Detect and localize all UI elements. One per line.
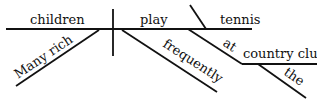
modifier-rich: rich (45, 31, 75, 58)
modifier-the: the (281, 64, 307, 89)
sentence-diagram: children play tennis Many rich frequentl… (0, 0, 317, 101)
prep-object-word: country club (243, 46, 317, 61)
object-word: tennis (220, 12, 261, 27)
verb-word: play (140, 12, 168, 27)
verb-object-divider (190, 5, 206, 29)
subject-word: children (30, 12, 85, 27)
